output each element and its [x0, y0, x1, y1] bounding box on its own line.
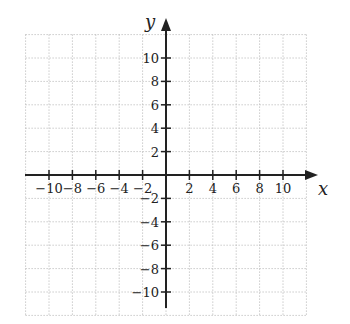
- x-tick-label: −8: [63, 181, 82, 196]
- y-axis-arrow-icon: [161, 18, 171, 31]
- y-tick-label: −4: [140, 215, 159, 230]
- y-tick-label: 8: [151, 74, 159, 89]
- y-tick-label: −8: [140, 262, 159, 277]
- y-tick-label: −2: [140, 191, 159, 206]
- x-tick-label: −4: [110, 181, 129, 196]
- y-tick-label: 4: [151, 121, 159, 136]
- y-tick-label: −6: [140, 238, 159, 253]
- x-tick-label: −6: [86, 181, 105, 196]
- y-tick-label: 6: [151, 98, 159, 113]
- x-axis-label: x: [318, 178, 328, 199]
- x-axis-arrow-icon: [305, 170, 318, 180]
- x-tick-label: 2: [185, 181, 193, 196]
- y-tick-label: −10: [132, 285, 159, 300]
- x-tick-label: 4: [209, 181, 217, 196]
- x-tick-label: 6: [232, 181, 240, 196]
- x-tick-label: 10: [275, 181, 292, 196]
- y-tick-label: 10: [142, 51, 159, 66]
- x-tick-label: −10: [35, 181, 62, 196]
- y-tick-label: 2: [151, 145, 159, 160]
- y-axis-label: y: [144, 11, 156, 32]
- x-tick-label: 8: [255, 181, 263, 196]
- coordinate-plane: x y −10−8−6−4−2246810108642−2−4−6−8−10: [0, 0, 350, 324]
